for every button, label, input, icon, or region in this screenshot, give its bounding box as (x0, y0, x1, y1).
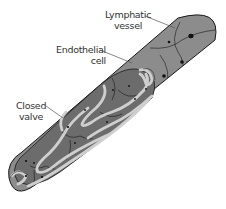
label-endothelial-cell-line1: Endothelial (56, 44, 106, 55)
leader-closed-valve (46, 106, 63, 118)
label-lymphatic-vessel-line2: vessel (105, 20, 151, 31)
label-lymphatic-vessel: Lymphatic vessel (105, 9, 151, 31)
label-closed-valve-line2: valve (16, 111, 46, 122)
label-closed-valve-line1: Closed (16, 100, 46, 111)
label-lymphatic-vessel-line1: Lymphatic (105, 9, 151, 20)
label-endothelial-cell: Endothelial cell (56, 44, 106, 66)
label-closed-valve: Closed valve (16, 100, 46, 122)
lymphatic-vessel-diagram: Lymphatic vessel Endothelial cell Closed… (0, 0, 226, 209)
label-endothelial-cell-line2: cell (56, 55, 106, 66)
